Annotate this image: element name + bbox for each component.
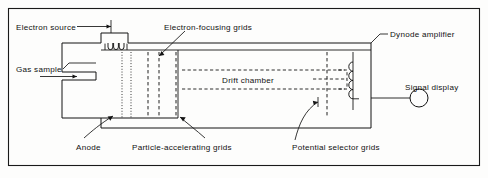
- label-dynode-amplifier: Dynode amplifier: [390, 30, 455, 39]
- anode-dotted-lines: [122, 52, 131, 118]
- label-drift-chamber: Drift chamber: [222, 76, 274, 85]
- label-particle-accelerating-grids: Particle-accelerating grids: [132, 143, 232, 152]
- dynode-leader: [371, 34, 388, 43]
- detector-schematic: Electron source Electron-focusing grids …: [0, 0, 488, 178]
- potential-selector-grids: [313, 52, 347, 118]
- selector-grids-leader: [295, 97, 318, 140]
- accelerating-grid-lines: [148, 52, 176, 118]
- arrow-right-icon: [107, 24, 112, 28]
- anode-leader: [84, 116, 113, 138]
- label-gas-sample: Gas sample: [16, 65, 62, 74]
- electron-source-filament: [105, 43, 127, 50]
- figure-container: Electron source Electron-focusing grids …: [0, 0, 488, 178]
- label-potential-selector-grids: Potential selector grids: [292, 143, 380, 152]
- arrow-right-icon: [73, 74, 78, 78]
- label-electron-source: Electron source: [16, 23, 76, 32]
- label-anode: Anode: [76, 143, 101, 152]
- label-electron-focusing-grids: Electron-focusing grids: [164, 23, 252, 32]
- label-signal-display: Signal display: [405, 83, 459, 92]
- dynode-amplifier: [349, 52, 359, 110]
- electron-source-leader: [77, 20, 111, 33]
